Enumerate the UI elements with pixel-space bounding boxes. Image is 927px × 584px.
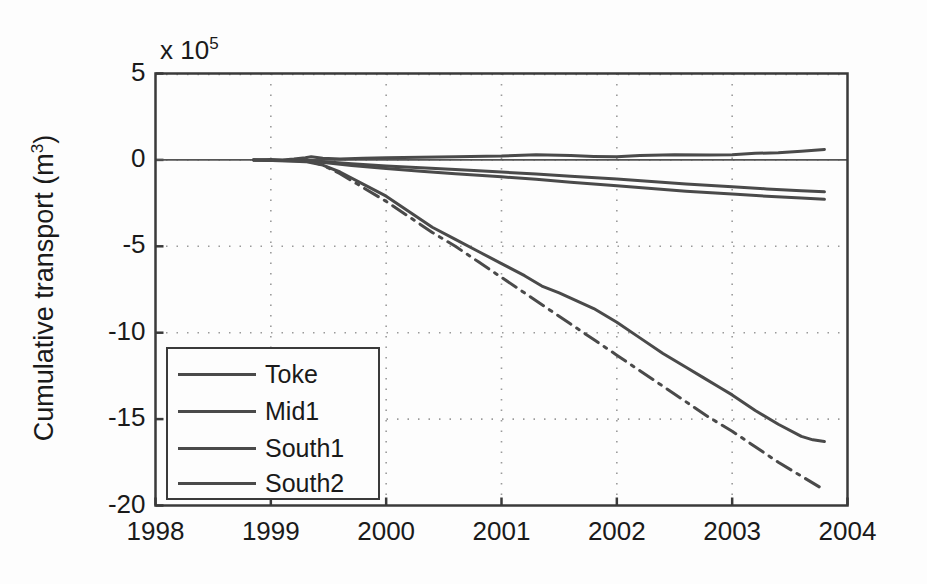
x-tick-label: 2004: [798, 516, 898, 547]
series-line-south2-dashdot: [305, 160, 824, 490]
series-line-toke: [254, 150, 825, 160]
legend-line-swatch: [178, 482, 256, 485]
y-tick-label: -5: [46, 229, 146, 260]
legend-line-swatch: [178, 410, 256, 413]
legend-item-mid1[interactable]: Mid1: [168, 392, 382, 430]
legend-item-south2[interactable]: South2: [168, 464, 382, 502]
legend-label: Toke: [265, 362, 318, 387]
x-tick-label: 2003: [682, 516, 782, 547]
legend-item-toke[interactable]: Toke: [168, 355, 382, 393]
legend-label: Mid1: [265, 399, 319, 424]
legend-line-swatch: [178, 447, 256, 450]
y-tick-label: 0: [46, 143, 146, 174]
figure-canvas: x 105 Cumulative transport (m3) 50-5-10-…: [0, 0, 927, 584]
legend-line-swatch: [178, 373, 256, 376]
legend-label: South2: [265, 471, 344, 496]
y-tick-label: -15: [46, 402, 146, 433]
x-tick-label: 2002: [567, 516, 667, 547]
legend-label: South1: [265, 436, 344, 461]
x-tick-label: 2000: [336, 516, 436, 547]
y-tick-label: 5: [46, 57, 146, 88]
x-tick-label: 1998: [106, 516, 206, 547]
y-tick-label: -10: [46, 316, 146, 347]
series-line-south1: [254, 160, 825, 199]
x-tick-label: 2001: [452, 516, 552, 547]
x-tick-label: 1999: [221, 516, 321, 547]
legend-item-south1[interactable]: South1: [168, 429, 382, 467]
chart-legend[interactable]: Toke Mid1 South1 South2: [166, 347, 380, 500]
